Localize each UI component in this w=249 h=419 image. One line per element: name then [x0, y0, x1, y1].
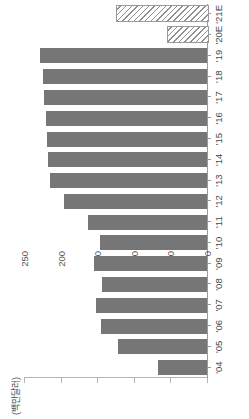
category-axis-tick — [207, 242, 211, 243]
category-axis-tick — [207, 284, 211, 285]
category-axis-label: '10 — [213, 237, 224, 249]
category-axis-label: '14 — [213, 154, 224, 166]
bar-actual — [64, 194, 207, 209]
category-axis-label: '08 — [213, 278, 224, 290]
value-axis-line — [24, 377, 207, 378]
category-axis-label: '18 — [213, 71, 224, 83]
value-axis-tick — [134, 378, 135, 383]
category-axis-label: '20E — [213, 26, 224, 45]
category-axis-tick — [207, 55, 211, 56]
value-axis-tick-label: 250 — [19, 251, 30, 267]
category-axis-tick — [207, 180, 211, 181]
category-axis-tick — [207, 159, 211, 160]
category-axis-tick — [207, 117, 211, 118]
category-axis-tick — [207, 221, 211, 222]
category-axis-label: '19 — [213, 50, 224, 62]
value-axis-tick — [170, 378, 171, 383]
category-axis-label: '12 — [213, 195, 224, 207]
bar-actual — [40, 48, 207, 63]
bar-actual — [88, 215, 207, 230]
bar-estimate — [116, 5, 209, 22]
bar-chart: (백만달러) 050100150200250 '04'05'06'07'08'0… — [0, 0, 249, 419]
bar-actual — [102, 277, 207, 292]
value-axis-tick — [61, 378, 62, 383]
value-axis-tick — [207, 378, 208, 383]
category-axis-tick — [207, 304, 211, 305]
category-axis-tick — [207, 367, 211, 368]
bar-actual — [96, 298, 207, 313]
bar-actual — [158, 360, 207, 375]
bar-actual — [101, 319, 207, 334]
bar-actual — [44, 90, 207, 105]
bar-actual — [47, 132, 207, 147]
category-axis-tick — [207, 346, 211, 347]
category-axis-label: '05 — [213, 341, 224, 353]
category-axis-label: '21E — [213, 5, 224, 24]
value-axis-tick-label: 200 — [55, 251, 66, 267]
category-axis-label: '07 — [213, 299, 224, 311]
category-axis-tick — [207, 325, 211, 326]
category-axis-line — [207, 4, 208, 378]
category-axis-tick — [207, 263, 211, 264]
category-axis-tick — [207, 97, 211, 98]
bar-actual — [50, 173, 207, 188]
bar-estimate — [167, 26, 209, 43]
bar-actual — [48, 152, 207, 167]
category-axis-tick — [207, 76, 211, 77]
category-axis-label: '11 — [213, 216, 224, 228]
category-axis-label: '16 — [213, 112, 224, 124]
category-axis-label: '13 — [213, 174, 224, 186]
category-axis-label: '09 — [213, 258, 224, 270]
bar-actual — [46, 111, 207, 126]
category-axis-label: '17 — [213, 91, 224, 103]
value-axis-tick — [97, 378, 98, 383]
category-axis-label: '04 — [213, 361, 224, 373]
bar-actual — [43, 69, 207, 84]
category-axis-label: '15 — [213, 133, 224, 145]
value-axis-tick — [24, 378, 25, 383]
category-axis-tick — [207, 200, 211, 201]
bar-actual — [118, 339, 207, 354]
category-axis-label: '06 — [213, 320, 224, 332]
bar-actual — [94, 256, 207, 271]
category-axis-tick — [207, 138, 211, 139]
bar-actual — [100, 235, 207, 250]
y-axis-unit-label: (백만달러) — [9, 377, 22, 415]
rotated-chart-canvas: (백만달러) 050100150200250 '04'05'06'07'08'0… — [0, 0, 249, 419]
